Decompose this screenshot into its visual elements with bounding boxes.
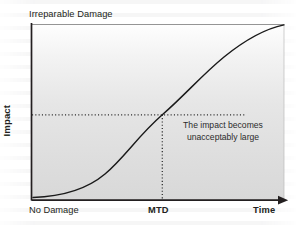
impact-annotation-line-2: unacceptably large	[187, 132, 259, 142]
x-axis-origin-label: No Damage	[29, 205, 79, 216]
x-axis-title: Time	[253, 205, 275, 216]
plot-area-background	[32, 25, 285, 201]
impact-vs-time-chart: Irreparable Damage Impact No Damage MTD …	[0, 0, 296, 229]
impact-annotation: The impact becomes unacceptably large	[168, 120, 278, 144]
y-axis-top-label: Irreparable Damage	[29, 9, 113, 20]
y-axis-title: Impact	[1, 105, 12, 137]
x-axis-mtd-label: MTD	[148, 205, 169, 216]
chart-canvas	[0, 0, 296, 229]
impact-annotation-line-1: The impact becomes	[183, 120, 263, 130]
